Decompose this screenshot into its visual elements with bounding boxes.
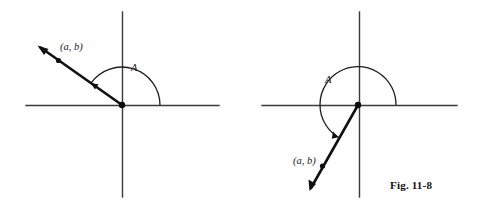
reflex-angle-diagram: (a, b) A [262,12,457,197]
obtuse-angle-diagram: (a, b) A [26,12,219,197]
left-ray-arrow-tip [38,46,49,56]
figure-caption: Fig. 11-8 [390,179,432,191]
right-angle-label: A [324,74,332,85]
left-angle-label: A [130,62,138,73]
left-origin-marker [119,102,125,108]
right-point-marker [320,163,325,168]
left-point-label: (a, b) [60,41,83,53]
left-point-marker [56,58,61,63]
right-origin-marker [355,102,361,108]
left-angle-arc [91,67,160,105]
right-point-label: (a, b) [293,155,316,167]
left-ray [41,48,123,106]
figure-svg: (a, b) A (a, b) A Fig. 11-8 [0,0,479,210]
figure-container: (a, b) A (a, b) A Fig. 11-8 [0,0,479,210]
right-ray [311,105,358,188]
